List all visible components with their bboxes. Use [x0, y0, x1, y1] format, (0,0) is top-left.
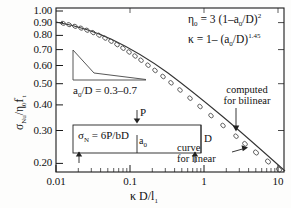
y-tick-label-1: 1.00 [18, 5, 52, 16]
y-tick-label-6: 0.50 [18, 78, 52, 89]
beam-notch-label: a0 [139, 136, 147, 149]
bilinear-line-2: for bilinear [224, 95, 271, 106]
y-axis-prime: ' [12, 97, 20, 98]
y-axis-sub-zero: 0 [20, 103, 28, 107]
inset-softening-label: a0/D = 0.3–0.7 [73, 85, 137, 99]
equation-eta: η0 = 3 (1–a0/D)2 [188, 13, 261, 28]
notch-a-sub: 0 [143, 141, 147, 149]
x-axis-sub: 1 [154, 197, 158, 205]
y-axis-sub-nu: Nu [20, 115, 28, 124]
x-tick-label-3: 1 [197, 176, 211, 187]
x-tick-label-2: 0.1 [118, 176, 142, 187]
y-axis-sub-t: t [20, 95, 28, 97]
bilinear-line-1: computed [226, 84, 267, 95]
y-axis-f: f [13, 99, 25, 103]
linear-line-1: curve [177, 142, 200, 153]
x-axis-rest: D/l [136, 189, 154, 203]
annotation-curve-linear: curve for linear [177, 142, 239, 164]
eta-tail: /D) [242, 13, 257, 25]
kappa-rhs: = 1– (a [194, 33, 230, 45]
linear-line-2: for linear [177, 153, 216, 164]
figure-container: 1.00 0.90 0.80 0.70 0.60 0.50 0.40 0.30 … [0, 0, 291, 208]
beam-sigma-rest: = 6P/bD [89, 129, 129, 141]
equation-kappa: κ = 1– (a0/D)1.45 [188, 33, 260, 48]
y-axis-mid: /η [13, 106, 25, 115]
y-axis-sigma: σ [13, 124, 25, 130]
annotation-computed-bilinear: computed for bilinear [211, 84, 283, 106]
eta-rhs: = 3 (1–a [198, 13, 239, 25]
kappa-tail: /D) [233, 33, 248, 45]
y-tick-label-2: 0.90 [18, 17, 52, 28]
x-axis-title: κ D/l1 [130, 190, 158, 205]
beam-load-label: P [140, 107, 146, 118]
y-tick-label-3: 0.80 [18, 29, 52, 40]
y-tick-label-5: 0.60 [18, 60, 52, 71]
x-tick-label-4: 10 [269, 176, 287, 187]
kappa-exponent: 1.45 [248, 32, 260, 40]
eta-exponent: 2 [258, 12, 262, 20]
y-tick-label-9: 0.20 [18, 157, 52, 168]
x-tick-label-1: 0.01 [41, 176, 71, 187]
y-tick-label-4: 0.70 [18, 44, 52, 55]
softening-rest: /D = 0.3–0.7 [81, 84, 137, 96]
y-axis-title: σNu/η0f't [12, 95, 28, 130]
beam-sigma-formula: σN = 6P/bD [78, 130, 129, 144]
